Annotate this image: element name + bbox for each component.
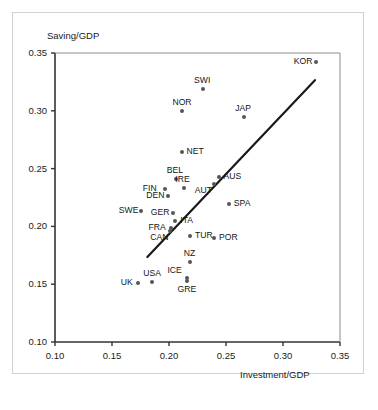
point-label-ita: ITA — [180, 215, 193, 225]
point-label-ger: GER — [151, 207, 170, 217]
point-label-por: POR — [219, 232, 238, 242]
point-label-jap: JAP — [235, 103, 251, 113]
x-tick-label: 0.35 — [323, 350, 357, 361]
point-label-ire: IRE — [175, 174, 189, 184]
data-point-gre — [185, 279, 189, 283]
point-label-fra: FRA — [149, 222, 166, 232]
y-tick-label: 0.15 — [21, 278, 47, 289]
data-point-tur — [188, 234, 192, 238]
point-label-den: DEN — [146, 190, 164, 200]
data-point-aus — [217, 175, 221, 179]
point-label-usa: USA — [143, 268, 161, 278]
data-point-por — [212, 236, 216, 240]
point-label-uk: UK — [121, 277, 133, 287]
point-label-nor: NOR — [172, 97, 191, 107]
point-label-swi: SWI — [194, 75, 210, 85]
x-tick-label: 0.15 — [95, 350, 129, 361]
point-label-kor: KOR — [294, 56, 313, 66]
x-tick-label: 0.30 — [266, 350, 300, 361]
x-tick-label: 0.10 — [38, 350, 72, 361]
y-tick-label: 0.20 — [21, 220, 47, 231]
data-point-kor — [314, 60, 318, 64]
data-point-nor — [180, 109, 184, 113]
point-label-gre: GRE — [178, 284, 197, 294]
point-label-net: NET — [187, 146, 204, 156]
point-label-nz: NZ — [184, 248, 195, 258]
x-tick-label: 0.20 — [152, 350, 186, 361]
point-label-tur: TUR — [195, 230, 213, 240]
y-tick-label: 0.30 — [21, 105, 47, 116]
data-point-spa — [227, 202, 231, 206]
plot-canvas — [0, 0, 378, 410]
y-tick-label: 0.10 — [21, 336, 47, 347]
point-label-can: CAN — [150, 232, 168, 242]
point-label-ice: ICE — [167, 265, 181, 275]
point-label-spa: SPA — [234, 198, 251, 208]
point-label-swe: SWE — [119, 205, 139, 215]
scatter-plot: Saving/GDP Investment/GDP 0.100.150.200.… — [0, 0, 378, 410]
point-label-aut: AUT — [195, 185, 212, 195]
point-label-aus: AUS — [224, 171, 242, 181]
x-tick-label: 0.25 — [209, 350, 243, 361]
y-tick-label: 0.35 — [21, 47, 47, 58]
y-tick-label: 0.25 — [21, 163, 47, 174]
data-point-uk — [136, 281, 140, 285]
